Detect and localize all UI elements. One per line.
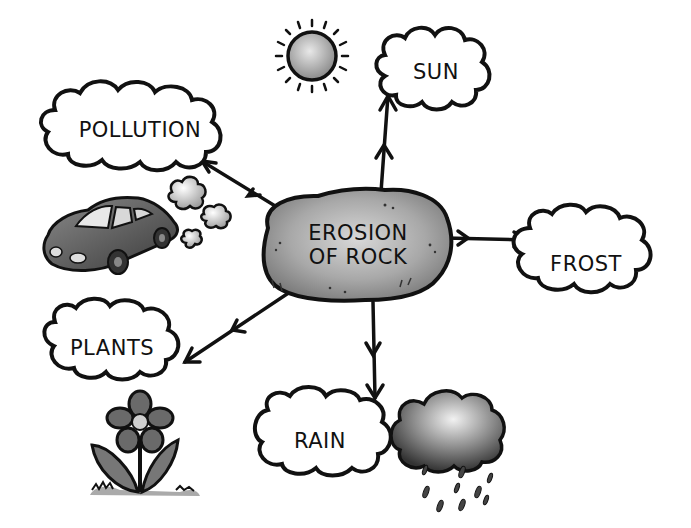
arrow-to-rain: [366, 302, 383, 398]
arrow-to-plants: [185, 292, 290, 362]
center-node-label: EROSION OF ROCK: [308, 221, 408, 269]
arrow-to-pollution: [200, 160, 285, 212]
rain-cloud-icon: [391, 391, 504, 513]
node-label-sun: SUN: [413, 60, 459, 84]
node-label-frost: FROST: [550, 252, 622, 276]
center-label-line1: EROSION: [308, 221, 408, 245]
arrow-to-sun: [376, 95, 396, 192]
flower-icon: [90, 391, 200, 496]
cloud-frost: [514, 205, 651, 293]
node-label-pollution: POLLUTION: [79, 118, 202, 142]
sun-icon: [276, 20, 348, 92]
exhaust-puffs-icon: [169, 177, 231, 248]
car-icon: [44, 198, 178, 275]
center-label-line2: OF ROCK: [308, 245, 408, 269]
node-label-plants: PLANTS: [70, 336, 154, 360]
node-label-rain: RAIN: [294, 429, 346, 453]
